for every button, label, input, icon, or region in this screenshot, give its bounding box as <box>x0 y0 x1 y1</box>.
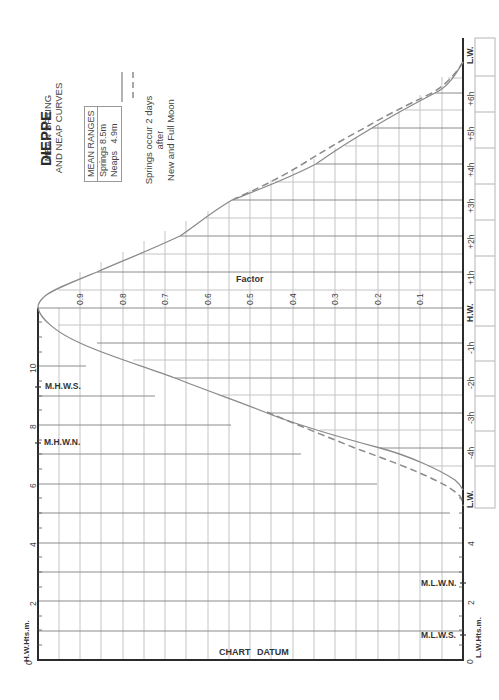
tidal-curve-diagram <box>0 0 499 700</box>
chart-datum-label: CHART DATUM <box>219 647 289 657</box>
time-label-plus-1h: +1h <box>466 271 476 285</box>
factor-tick-0.9: 0.9 <box>75 293 85 305</box>
hw-tick-10: 10 <box>28 364 38 373</box>
hw-height-axis-label: H.W.Hts.m. <box>22 620 31 662</box>
factor-tick-0.2: 0.2 <box>373 293 383 305</box>
time-label-lw-start: L.W. <box>465 491 475 508</box>
factor-tick-0.1: 0.1 <box>415 293 425 305</box>
time-label-hw: H.W. <box>465 304 475 322</box>
note-line-3: New and Full Moon <box>165 95 176 185</box>
factor-tick-0.8: 0.8 <box>118 293 128 305</box>
time-label-minus-3h: -3h <box>466 412 476 424</box>
time-label-plus-6h: +6h <box>466 92 476 106</box>
legend-header: MEAN RANGES <box>85 107 98 181</box>
mhws-marker: M.H.W.S. <box>45 381 81 391</box>
mlws-marker: M.L.W.S. <box>421 630 456 640</box>
subtitle: MEAN SPRING AND NEAP CURVES <box>42 73 64 183</box>
hw-tick-0: 0 <box>24 660 34 665</box>
lw-tick-2: 2 <box>466 600 476 605</box>
time-label-lw-end: L.W. <box>465 47 475 64</box>
hw-tick-2: 2 <box>28 601 38 606</box>
time-label-minus-4h: -4h <box>466 447 476 459</box>
factor-tick-0.3: 0.3 <box>330 293 340 305</box>
factor-tick-0.4: 0.4 <box>288 293 298 305</box>
legend: MEAN RANGES Springs 8.5m Neaps 4.9m <box>84 106 122 182</box>
legend-neaps: Neaps 4.9m <box>109 107 120 181</box>
factor-tick-0.6: 0.6 <box>203 293 213 305</box>
hw-tick-6: 6 <box>28 483 38 488</box>
legend-springs: Springs 8.5m <box>98 107 109 181</box>
time-label-plus-3h: +3h <box>466 199 476 213</box>
factor-tick-0.5: 0.5 <box>245 293 255 305</box>
subtitle-line-1: MEAN SPRING <box>42 73 53 183</box>
hw-tick-4: 4 <box>28 542 38 547</box>
lw-tick-4: 4 <box>466 541 476 546</box>
springs-note: Springs occur 2 days after New and Full … <box>143 95 176 185</box>
note-line-1: Springs occur 2 days <box>143 95 154 185</box>
subtitle-line-2: AND NEAP CURVES <box>53 73 64 183</box>
time-label-minus-2h: -2h <box>466 377 476 389</box>
factor-axis-label: Factor <box>236 274 264 284</box>
note-line-2: after <box>154 95 165 185</box>
time-boxes <box>475 38 495 508</box>
time-label-minus-1h: -1h <box>466 342 476 354</box>
factor-tick-0.7: 0.7 <box>160 293 170 305</box>
time-label-plus-5h: +5h <box>466 127 476 141</box>
lw-tick-0: 0 <box>465 659 475 664</box>
time-label-plus-4h: +4h <box>466 163 476 177</box>
mlwn-marker: M.L.W.N. <box>421 578 456 588</box>
hw-tick-8: 8 <box>28 424 38 429</box>
mhwn-marker: M.H.W.N. <box>44 437 80 447</box>
time-label-plus-2h: +2h <box>466 235 476 249</box>
lw-height-axis-label: L.W.Hts.m. <box>474 617 483 658</box>
